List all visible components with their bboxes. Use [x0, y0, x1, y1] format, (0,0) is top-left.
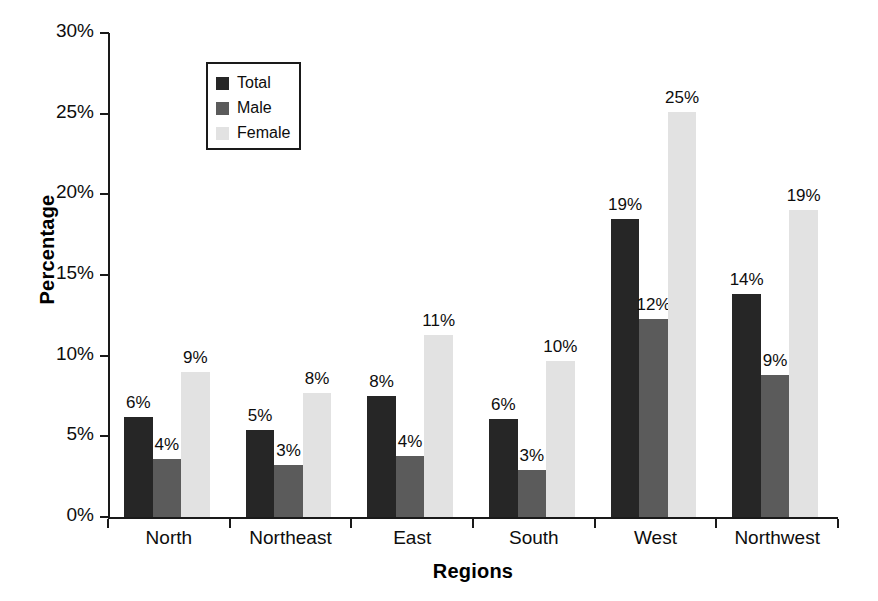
bar-value-label: 6% — [476, 395, 531, 415]
x-axis-label-north: North — [108, 527, 230, 549]
bar-value-label: 9% — [168, 348, 223, 368]
bar-value-label: 25% — [655, 88, 710, 108]
legend-swatch-female-icon — [216, 127, 229, 140]
bar-value-label: 19% — [776, 186, 831, 206]
y-axis-tick — [100, 274, 109, 276]
y-axis-title: Percentage — [36, 170, 59, 330]
bar-value-label: 8% — [354, 372, 409, 392]
bar-value-label: 5% — [233, 406, 288, 426]
bar-value-label: 19% — [598, 195, 653, 215]
bar-south-total — [489, 419, 518, 517]
y-axis-tick — [100, 193, 109, 195]
bar-west-total — [611, 219, 640, 517]
x-axis-title: Regions — [108, 560, 838, 583]
bar-northwest-male — [761, 375, 790, 517]
y-axis-tick — [100, 516, 109, 518]
bar-value-label: 6% — [111, 393, 166, 413]
legend-label-total: Total — [237, 74, 271, 92]
y-axis-tick — [100, 355, 109, 357]
bar-south-female — [546, 361, 575, 517]
bar-value-label: 14% — [719, 270, 774, 290]
bar-value-label: 8% — [290, 369, 345, 389]
x-axis-label-south: South — [473, 527, 595, 549]
legend-item-male: Male — [216, 97, 272, 119]
legend-label-male: Male — [237, 99, 272, 117]
bar-east-female — [424, 335, 453, 517]
bar-chart: 0%5%10%15%20%25%30% 6%4%9%5%3%8%8%4%11%6… — [0, 0, 878, 601]
legend-swatch-total-icon — [216, 77, 229, 90]
legend-item-female: Female — [216, 122, 290, 144]
bar-west-female — [668, 112, 697, 517]
bar-northwest-total — [732, 294, 761, 517]
bar-east-male — [396, 456, 425, 517]
bar-west-male — [639, 319, 668, 517]
y-axis-tick — [100, 32, 109, 34]
y-axis-tick — [100, 435, 109, 437]
y-axis-tick-label: 0% — [20, 504, 94, 526]
x-axis-label-northwest: Northwest — [716, 527, 838, 549]
legend-label-female: Female — [237, 124, 290, 142]
legend: Total Male Female — [206, 62, 301, 150]
y-axis-tick-label: 25% — [20, 101, 94, 123]
bar-north-male — [153, 459, 182, 517]
x-axis-label-east: East — [351, 527, 473, 549]
bar-northeast-female — [303, 393, 332, 517]
y-axis-tick — [100, 113, 109, 115]
y-axis-tick-label: 30% — [20, 20, 94, 42]
bar-south-male — [518, 470, 547, 517]
bar-value-label: 11% — [411, 311, 466, 331]
x-axis-label-west: West — [595, 527, 717, 549]
legend-item-total: Total — [216, 72, 271, 94]
x-axis-label-northeast: Northeast — [230, 527, 352, 549]
bar-north-total — [124, 417, 153, 517]
bar-northwest-female — [789, 210, 818, 517]
bar-northeast-male — [274, 465, 303, 517]
bar-east-total — [367, 396, 396, 517]
y-axis-tick-label: 10% — [20, 343, 94, 365]
bar-value-label: 10% — [533, 337, 588, 357]
y-axis-tick-label: 5% — [20, 423, 94, 445]
legend-swatch-male-icon — [216, 102, 229, 115]
bar-north-female — [181, 372, 210, 517]
